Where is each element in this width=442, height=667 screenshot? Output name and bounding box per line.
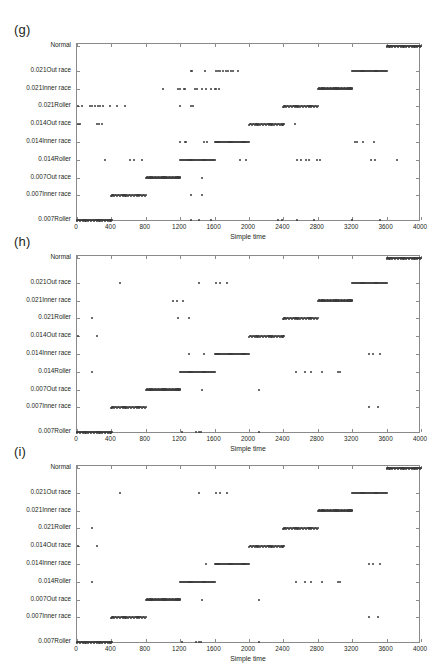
data-point-outlier xyxy=(94,105,96,107)
x-axis-tick-top xyxy=(180,256,181,259)
data-point-outlier xyxy=(181,641,183,643)
data-point-outlier xyxy=(119,492,121,494)
y-axis-tick xyxy=(77,511,80,512)
data-point-outlier xyxy=(219,70,221,72)
x-axis-tick-top xyxy=(283,44,284,47)
y-tick-label: 0.021Out race xyxy=(30,278,71,284)
data-point xyxy=(110,219,112,221)
data-point-outlier xyxy=(109,105,111,107)
data-point-outlier xyxy=(368,353,370,355)
x-tick-label: 2800 xyxy=(310,224,324,230)
data-point-outlier xyxy=(181,431,183,433)
y-axis-tick xyxy=(77,407,80,408)
data-point xyxy=(351,299,353,301)
y-tick-label: 0.014Roller xyxy=(38,155,71,161)
data-point xyxy=(248,563,250,565)
data-point-outlier xyxy=(281,219,283,221)
y-tick-label: 0.021Inner race xyxy=(26,296,71,302)
data-point-outlier xyxy=(370,159,372,161)
data-point xyxy=(386,282,388,284)
y-axis-tick-right xyxy=(416,178,419,179)
data-point-outlier xyxy=(300,159,302,161)
data-point xyxy=(386,492,388,494)
data-point-outlier xyxy=(339,371,341,373)
y-axis-tick-right xyxy=(416,372,419,373)
y-axis-tick xyxy=(77,318,80,319)
data-point-outlier xyxy=(179,141,181,143)
x-axis-tick xyxy=(146,217,147,220)
data-point-outlier xyxy=(182,300,184,302)
y-axis-tick-right xyxy=(416,528,419,529)
y-axis-tick-right xyxy=(416,71,419,72)
data-point xyxy=(179,388,181,390)
panel-g: (g)Normal0.021Out race0.021Inner race0.0… xyxy=(0,22,442,249)
data-point-outlier xyxy=(215,282,217,284)
y-tick-label: 0.021Roller xyxy=(38,524,71,530)
x-axis-tick-top xyxy=(146,256,147,259)
data-point-outlier xyxy=(119,282,121,284)
data-point-outlier xyxy=(179,105,181,107)
x-axis-tick xyxy=(283,429,284,432)
data-point-outlier xyxy=(368,563,370,565)
data-point-outlier xyxy=(295,371,297,373)
data-point-outlier xyxy=(91,317,93,319)
y-tick-label: 0.014Inner race xyxy=(26,350,71,356)
y-tick-label: 0.021Roller xyxy=(38,102,71,108)
data-point-outlier xyxy=(339,581,341,583)
data-point-outlier xyxy=(295,581,297,583)
data-point-outlier xyxy=(101,123,103,125)
y-tick-label: 0.021Inner race xyxy=(26,506,71,512)
data-point-outlier xyxy=(203,141,205,143)
data-point-outlier xyxy=(196,88,198,90)
panel-letter-label: (i) xyxy=(14,444,26,459)
y-axis-tick xyxy=(77,354,80,355)
y-axis-tick-right xyxy=(416,301,419,302)
data-point-outlier xyxy=(222,70,224,72)
y-axis-tick-right xyxy=(416,600,419,601)
data-point-outlier xyxy=(374,159,376,161)
y-axis-tick-right xyxy=(416,511,419,512)
data-point-outlier xyxy=(201,88,203,90)
x-axis-tick xyxy=(146,429,147,432)
x-axis-tick xyxy=(421,429,422,432)
data-point-outlier xyxy=(313,219,315,221)
data-point-outlier xyxy=(368,616,370,618)
x-axis-tick xyxy=(283,639,284,642)
data-point-outlier xyxy=(215,492,217,494)
y-axis-tick-right xyxy=(416,493,419,494)
y-axis-tick-right xyxy=(416,546,419,547)
x-axis-tick-top xyxy=(180,44,181,47)
data-point-outlier xyxy=(179,88,181,90)
data-point-outlier xyxy=(310,371,312,373)
data-point-outlier xyxy=(185,141,187,143)
data-point-outlier xyxy=(379,353,381,355)
x-axis-tick xyxy=(283,217,284,220)
x-axis-tick-top xyxy=(318,466,319,469)
data-point xyxy=(214,581,216,583)
data-point xyxy=(351,509,353,511)
data-point xyxy=(386,70,388,72)
data-point-outlier xyxy=(124,105,126,107)
data-point-outlier xyxy=(190,219,192,221)
y-axis-tick-right xyxy=(416,582,419,583)
data-point-outlier xyxy=(232,70,234,72)
y-tick-label: 0.007Roller xyxy=(38,428,71,434)
x-tick-label: 2000 xyxy=(241,224,255,230)
data-point-outlier xyxy=(184,88,186,90)
y-axis-tick-right xyxy=(416,642,419,643)
y-axis-tick xyxy=(77,89,80,90)
data-point xyxy=(248,141,250,143)
data-point-outlier xyxy=(177,317,179,319)
x-tick-label: 2800 xyxy=(310,646,324,652)
y-axis-tick xyxy=(77,178,80,179)
x-tick-label: 2800 xyxy=(310,436,324,442)
x-tick-label: 3200 xyxy=(344,646,358,652)
data-point-outlier xyxy=(91,371,93,373)
x-axis-tick xyxy=(180,217,181,220)
x-tick-label: 1600 xyxy=(206,436,220,442)
data-point-outlier xyxy=(129,159,131,161)
data-point-outlier xyxy=(294,123,296,125)
y-axis-tick-right xyxy=(416,283,419,284)
data-point xyxy=(110,641,112,643)
x-axis-tick-top xyxy=(77,256,78,259)
